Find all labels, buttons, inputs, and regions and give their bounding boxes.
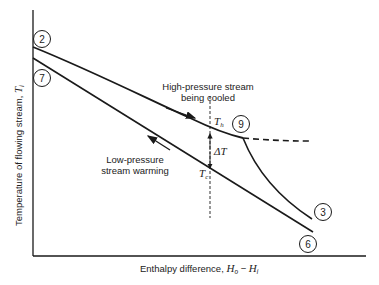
svg-text:7: 7 <box>39 73 45 84</box>
x-axis-label: Enthalpy difference, Ho − Hi <box>140 262 259 275</box>
point-2-marker: 2 <box>34 31 51 48</box>
hot-stream-dashed-extension <box>243 138 310 141</box>
hot-stream-label-line2: being cooled <box>181 92 235 103</box>
branch-curve-9-to-3 <box>243 138 312 219</box>
point-6-marker: 6 <box>300 236 317 253</box>
point-7-marker: 7 <box>34 70 51 87</box>
hot-stream-label-line1: High-pressure stream <box>162 81 253 92</box>
th-label: Th <box>214 115 224 129</box>
point-9-marker: 9 <box>233 116 250 133</box>
point-3-marker: 3 <box>315 204 332 221</box>
svg-text:2: 2 <box>39 34 45 45</box>
cold-direction-arrow <box>148 136 170 150</box>
hot-direction-arrow <box>166 108 195 118</box>
tc-label: Tc <box>199 167 209 181</box>
delta-t-label: ΔT <box>213 145 227 157</box>
svg-text:9: 9 <box>238 119 244 130</box>
svg-text:6: 6 <box>305 239 311 250</box>
heat-exchanger-diagram: 2 7 9 3 6 High-pressure stream being coo… <box>0 0 379 285</box>
cold-stream-label-line1: Low-pressure <box>106 154 164 165</box>
svg-text:3: 3 <box>320 207 326 218</box>
cold-stream-label-line2: stream warming <box>101 165 169 176</box>
y-axis-label: Temperature of flowing stream, Ti <box>12 85 25 226</box>
